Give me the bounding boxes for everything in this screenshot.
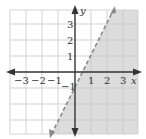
x-axis-label: x [131, 75, 137, 86]
y-tick-3: 3 [67, 19, 73, 30]
y-axis-label: y [79, 5, 86, 16]
x-tick-neg2: −2 [31, 75, 46, 86]
x-tick-2: 2 [104, 75, 110, 86]
x-tick-1: 1 [88, 75, 94, 86]
inequality-graph: −3 −2 −1 1 2 3 x 3 2 1 −1 y [0, 0, 146, 139]
y-tick-neg1: −1 [61, 81, 76, 92]
y-tick-1: 1 [67, 51, 73, 62]
x-tick-neg1: −1 [47, 75, 62, 86]
y-tick-2: 2 [67, 35, 73, 46]
x-tick-neg3: −3 [14, 75, 29, 86]
x-tick-3: 3 [120, 75, 126, 86]
y-axis-arrow-up [72, 5, 79, 14]
